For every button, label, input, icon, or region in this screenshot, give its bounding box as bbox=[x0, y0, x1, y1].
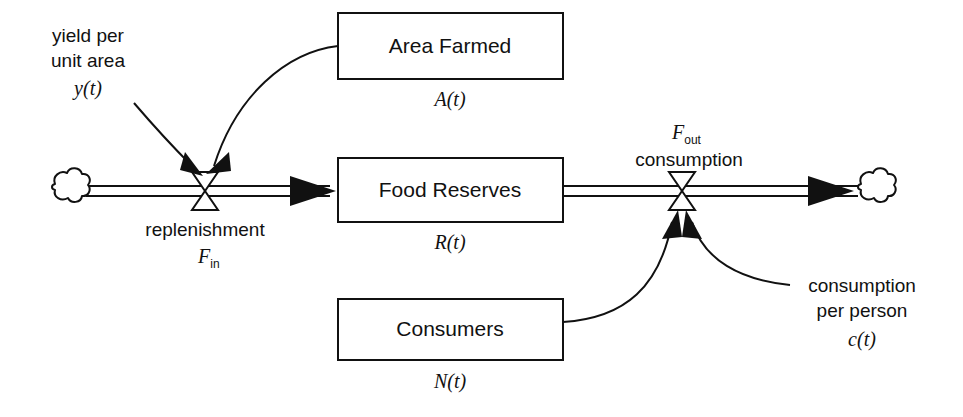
flow-replenishment-label: replenishment Fin bbox=[145, 219, 265, 271]
flow-replenishment-symbol-subscript: in bbox=[210, 257, 219, 271]
outflow-pipe bbox=[563, 176, 858, 206]
stock-consumers-variable: N(t) bbox=[433, 370, 467, 393]
source-cloud bbox=[52, 168, 90, 202]
link-yield-arrowhead bbox=[180, 152, 203, 176]
diagram-canvas: Area Farmed A(t) Food Reserves R(t) Cons… bbox=[0, 0, 963, 417]
aux-cpp-line-1: consumption bbox=[808, 275, 916, 296]
flow-replenishment-name: replenishment bbox=[145, 219, 265, 240]
link-consumers-to-consumption bbox=[563, 210, 682, 322]
aux-cpp-line-2: per person bbox=[817, 300, 908, 321]
flow-consumption-name: consumption bbox=[635, 149, 743, 170]
aux-cpp-variable: c(t) bbox=[848, 328, 876, 351]
flow-consumption-label: Fout consumption bbox=[635, 121, 743, 170]
replenishment-valve bbox=[192, 172, 218, 210]
aux-consumption-per-person: consumption per person c(t) bbox=[808, 275, 916, 351]
outflow-arrowhead bbox=[808, 176, 854, 206]
stock-area-farmed-variable: A(t) bbox=[432, 88, 465, 111]
aux-yield-line-1: yield per bbox=[52, 25, 124, 46]
flow-replenishment-symbol: Fin bbox=[197, 245, 220, 271]
sink-cloud bbox=[858, 168, 896, 202]
aux-yield-line-2: unit area bbox=[51, 50, 125, 71]
stock-consumers[interactable]: Consumers N(t) bbox=[338, 299, 563, 393]
flow-consumption-symbol-subscript: out bbox=[684, 133, 701, 147]
stock-food-reserves-variable: R(t) bbox=[433, 231, 465, 254]
link-cpp-to-consumption bbox=[682, 210, 790, 285]
stock-consumers-label: Consumers bbox=[396, 317, 503, 340]
link-area-to-replenishment bbox=[206, 46, 338, 174]
link-yield-to-replenishment bbox=[134, 103, 203, 176]
stock-flow-diagram: Area Farmed A(t) Food Reserves R(t) Cons… bbox=[0, 0, 963, 417]
stock-food-reserves[interactable]: Food Reserves R(t) bbox=[338, 158, 563, 254]
link-consumers-arrowhead bbox=[662, 210, 682, 239]
stock-area-farmed[interactable]: Area Farmed A(t) bbox=[338, 13, 563, 111]
aux-yield-variable: y(t) bbox=[72, 77, 102, 100]
flow-consumption-symbol: Fout bbox=[671, 121, 702, 147]
link-cpp-arrowhead bbox=[682, 210, 702, 239]
consumption-valve bbox=[669, 172, 695, 210]
inflow-arrowhead bbox=[290, 176, 336, 206]
flow-replenishment-symbol-base: F bbox=[197, 245, 211, 267]
flow-consumption-symbol-base: F bbox=[671, 121, 685, 143]
aux-yield-per-unit-area: yield per unit area y(t) bbox=[51, 25, 125, 100]
stock-food-reserves-label: Food Reserves bbox=[379, 178, 521, 201]
stock-area-farmed-label: Area Farmed bbox=[389, 34, 512, 57]
